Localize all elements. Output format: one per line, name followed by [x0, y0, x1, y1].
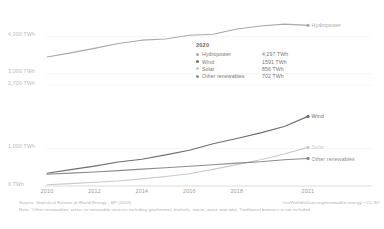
series-endpoint-marker: [306, 115, 309, 118]
y-axis-tick-label: 4,000 TWh: [8, 31, 35, 37]
legend-series-value: 702 TWh: [262, 73, 284, 79]
legend-row[interactable]: Hydropower4,297 TWh: [196, 51, 316, 58]
legend-series-value: 1591 TWh: [262, 59, 287, 65]
series-line: [47, 159, 308, 175]
legend-swatch-icon: [196, 60, 199, 63]
legend-series-name: Other renewables: [202, 73, 262, 79]
series-line: [47, 116, 308, 173]
chart-container: 4,000 TWh3,000 TWh2,700 TWh1,000 TWh0 TW…: [0, 0, 384, 229]
legend-row[interactable]: Solar856 TWh: [196, 65, 316, 72]
x-axis-tick-label: 2021: [302, 188, 315, 194]
series-endpoint-marker: [306, 157, 309, 160]
legend-swatch-icon: [196, 67, 199, 70]
series-end-label: Wind: [312, 113, 324, 119]
legend-title: 2020: [196, 42, 316, 48]
footer-note: Note: 'Other renewables' refers to renew…: [19, 207, 311, 212]
y-axis-tick-label: 2,700 TWh: [8, 80, 35, 86]
series-endpoint-marker: [306, 24, 309, 27]
series-endpoint-marker: [306, 146, 309, 149]
chart-legend: 2020 Hydropower4,297 TWhWind1591 TWhSola…: [196, 42, 316, 80]
legend-swatch-icon: [196, 75, 199, 78]
series-end-label: Solar: [312, 144, 325, 150]
legend-row[interactable]: Wind1591 TWh: [196, 58, 316, 65]
legend-series-value: 856 TWh: [262, 66, 284, 72]
series-end-label: Other renewables: [312, 156, 355, 162]
legend-series-name: Wind: [202, 59, 262, 65]
x-axis-tick-label: 2014: [136, 188, 149, 194]
legend-series-name: Solar: [202, 66, 262, 72]
footer-attribution[interactable]: OurWorldInData.org/renewable-energy • CC…: [283, 200, 380, 205]
x-axis-tick-label: 2016: [183, 188, 196, 194]
x-axis-tick-label: 2010: [41, 188, 54, 194]
y-axis-tick-label: 3,000 TWh: [8, 68, 35, 74]
series-end-label: Hydropower: [312, 22, 341, 28]
legend-row[interactable]: Other renewables702 TWh: [196, 73, 316, 80]
chart-plot-area: [0, 0, 384, 229]
legend-rows: Hydropower4,297 TWhWind1591 TWhSolar856 …: [196, 51, 316, 81]
y-axis-tick-label: 0 TWh: [8, 181, 24, 187]
footer-source: Source: Statistical Review of World Ener…: [19, 200, 131, 205]
y-axis-tick-label: 1,000 TWh: [8, 143, 35, 149]
legend-swatch-icon: [196, 53, 199, 56]
legend-series-value: 4,297 TWh: [262, 51, 288, 57]
x-axis-tick-label: 2012: [88, 188, 101, 194]
x-axis-tick-label: 2018: [230, 188, 243, 194]
legend-series-name: Hydropower: [202, 51, 262, 57]
